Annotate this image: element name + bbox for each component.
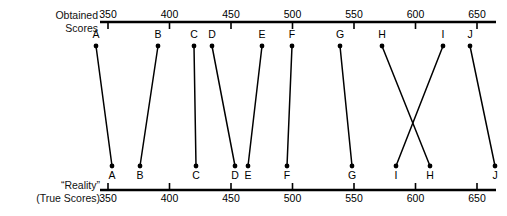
tick-label-350: 350 bbox=[99, 192, 117, 204]
obtained-marker-D bbox=[210, 44, 215, 49]
tick-label-550: 550 bbox=[345, 8, 363, 20]
true-label-E: E bbox=[244, 169, 251, 181]
true-marker-E bbox=[246, 164, 251, 169]
tick-label-450: 450 bbox=[222, 8, 240, 20]
connector-line-G bbox=[340, 46, 352, 166]
obtained-marker-C bbox=[192, 44, 197, 49]
tick-label-400: 400 bbox=[161, 8, 179, 20]
obtained-label-I: I bbox=[442, 28, 445, 40]
true-marker-F bbox=[285, 164, 290, 169]
true-label-J: J bbox=[492, 169, 497, 181]
obtained-marker-G bbox=[338, 44, 343, 49]
tick-label-450: 450 bbox=[222, 192, 240, 204]
obtained-marker-I bbox=[441, 44, 446, 49]
tick-label-350: 350 bbox=[99, 8, 117, 20]
obtained-label-E: E bbox=[258, 28, 265, 40]
connector-line-J bbox=[470, 46, 495, 166]
obtained-label-D: D bbox=[208, 28, 216, 40]
connector-line-C bbox=[194, 46, 196, 166]
true-scores-tick-marks bbox=[108, 183, 477, 189]
obtained-label-F: F bbox=[289, 28, 295, 40]
obtained-label-G: G bbox=[336, 28, 344, 40]
true-marker-J bbox=[493, 164, 498, 169]
connector-line-I bbox=[396, 46, 443, 166]
obtained-marker-E bbox=[260, 44, 265, 49]
true-marker-G bbox=[350, 164, 355, 169]
obtained-marker-B bbox=[156, 44, 161, 49]
obtained-label-C: C bbox=[190, 28, 198, 40]
true-label-C: C bbox=[192, 169, 200, 181]
true-label-A: A bbox=[108, 169, 115, 181]
obtained-scores-caption-line2: Scores bbox=[0, 22, 98, 35]
obtained-marker-F bbox=[290, 44, 295, 49]
connector-line-F bbox=[287, 46, 292, 166]
obtained-label-B: B bbox=[154, 28, 161, 40]
true-scores-axis-caption: “Reality” (True Scores) bbox=[0, 179, 100, 204]
obtained-label-H: H bbox=[378, 28, 386, 40]
connector-line-A bbox=[96, 46, 112, 166]
obtained-marker-A bbox=[94, 44, 99, 49]
true-score-markers bbox=[110, 164, 498, 169]
true-scores-caption-line2: (True Scores) bbox=[0, 192, 100, 205]
obtained-scores-axis: 350400450500550600650 bbox=[99, 8, 496, 29]
true-label-D: D bbox=[231, 169, 239, 181]
obtained-scores-tick-labels: 350400450500550600650 bbox=[99, 8, 486, 20]
tick-label-650: 650 bbox=[468, 8, 486, 20]
true-marker-A bbox=[110, 164, 115, 169]
tick-label-500: 500 bbox=[284, 8, 302, 20]
slope-chart-figure: Obtained Scores “Reality” (True Scores) … bbox=[0, 0, 507, 216]
tick-label-550: 550 bbox=[345, 192, 363, 204]
true-marker-D bbox=[233, 164, 238, 169]
connector-line-B bbox=[140, 46, 158, 166]
obtained-score-markers bbox=[94, 44, 473, 49]
obtained-score-point-labels: ABCDEFGHIJ bbox=[92, 28, 472, 40]
obtained-marker-J bbox=[468, 44, 473, 49]
connector-line-E bbox=[248, 46, 262, 166]
true-scores-tick-labels: 350400450500550600650 bbox=[99, 192, 486, 204]
true-label-F: F bbox=[284, 169, 290, 181]
true-label-I: I bbox=[395, 169, 398, 181]
obtained-label-J: J bbox=[467, 28, 472, 40]
true-label-H: H bbox=[426, 169, 434, 181]
true-scores-caption-line1: “Reality” bbox=[0, 179, 100, 192]
true-score-point-labels: ABCDEFGHIJ bbox=[108, 169, 497, 181]
true-label-G: G bbox=[348, 169, 356, 181]
obtained-scores-caption-line1: Obtained bbox=[0, 9, 98, 22]
tick-label-400: 400 bbox=[161, 192, 179, 204]
connector-line-H bbox=[382, 46, 430, 166]
tick-label-500: 500 bbox=[284, 192, 302, 204]
obtained-marker-H bbox=[380, 44, 385, 49]
tick-label-600: 600 bbox=[407, 8, 425, 20]
true-marker-H bbox=[428, 164, 433, 169]
true-label-B: B bbox=[136, 169, 143, 181]
tick-label-600: 600 bbox=[407, 192, 425, 204]
true-marker-I bbox=[394, 164, 399, 169]
true-marker-C bbox=[194, 164, 199, 169]
tick-label-650: 650 bbox=[468, 192, 486, 204]
score-connector-lines bbox=[96, 46, 495, 166]
obtained-scores-axis-caption: Obtained Scores bbox=[0, 9, 98, 34]
true-marker-B bbox=[138, 164, 143, 169]
connector-line-D bbox=[212, 46, 235, 166]
true-scores-axis: 350400450500550600650 bbox=[99, 183, 496, 204]
